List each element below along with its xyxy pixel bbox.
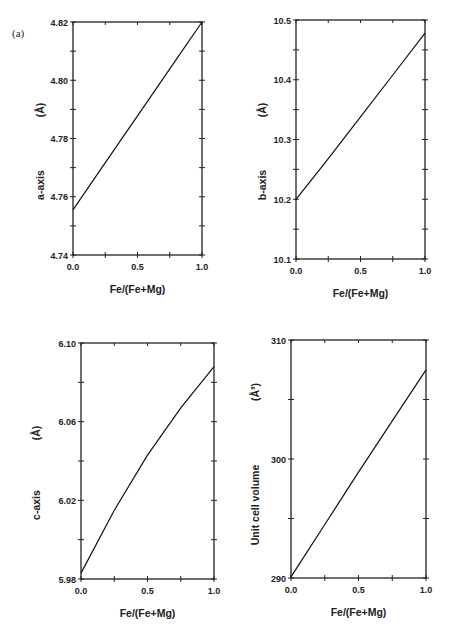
y-axis-label: Unit cell volume: [249, 465, 261, 546]
figure-canvas: 0.00.51.04.744.764.784.804.82Fe/(Fe+Mg)a…: [0, 0, 449, 631]
chart-4: 0.00.51.0290300310Fe/(Fe+Mg)Unit cell vo…: [249, 336, 432, 619]
y-tick-label: 4.74: [50, 251, 68, 261]
y-tick-label: 4.76: [50, 192, 68, 202]
y-tick-label: 310: [271, 336, 286, 346]
x-tick-label: 0.5: [131, 262, 144, 272]
data-line: [296, 33, 425, 199]
x-tick-label: 0.5: [141, 586, 154, 596]
y-tick-label: 10.3: [273, 135, 291, 145]
x-tick-label: 1.0: [196, 262, 209, 272]
chart-1: 0.00.51.04.744.764.784.804.82Fe/(Fe+Mg)a…: [34, 18, 208, 296]
x-tick-label: 1.0: [419, 266, 432, 276]
y-tick-label: 4.82: [50, 18, 68, 28]
chart-3: 0.00.51.05.986.026.066.10Fe/(Fe+Mg)c-axi…: [30, 339, 220, 620]
y-tick-label: 290: [271, 574, 286, 584]
y-axis-label: a-axis: [34, 170, 46, 200]
plot-frame: [73, 22, 202, 255]
chart-2: 0.00.51.010.110.210.310.410.5Fe/(Fe+Mg)b…: [256, 16, 431, 300]
y-axis-label: b-axis: [256, 170, 268, 201]
y-tick-label: 6.06: [58, 417, 76, 427]
x-tick-label: 0.0: [67, 262, 80, 272]
y-tick-label: 300: [271, 455, 286, 465]
y-axis-unit: (Å): [34, 103, 46, 118]
x-tick-label: 1.0: [420, 585, 433, 595]
x-tick-label: 0.0: [285, 585, 298, 595]
y-axis-unit: (Å): [256, 103, 268, 118]
plot-frame: [81, 343, 214, 579]
y-tick-label: 5.98: [58, 575, 76, 585]
y-tick-label: 4.80: [50, 76, 68, 86]
plot-frame: [296, 20, 425, 259]
plot-frame: [291, 340, 426, 578]
y-tick-label: 10.4: [273, 75, 291, 85]
x-axis-label: Fe/(Fe+Mg): [120, 607, 176, 619]
data-line: [73, 22, 202, 210]
y-tick-label: 10.5: [273, 16, 291, 26]
x-tick-label: 0.0: [75, 586, 88, 596]
y-tick-label: 6.10: [58, 339, 76, 349]
y-tick-label: 6.02: [58, 496, 76, 506]
data-line: [81, 367, 214, 573]
y-axis-label: c-axis: [30, 490, 42, 520]
y-tick-label: 10.1: [273, 255, 291, 265]
y-axis-unit: (Å³): [249, 383, 261, 401]
y-tick-label: 4.78: [50, 134, 68, 144]
x-tick-label: 1.0: [208, 586, 221, 596]
x-tick-label: 0.5: [354, 266, 367, 276]
x-axis-label: Fe/(Fe+Mg): [331, 606, 387, 618]
x-axis-label: Fe/(Fe+Mg): [333, 287, 389, 299]
x-tick-label: 0.0: [290, 266, 303, 276]
y-axis-unit: (Å): [30, 426, 42, 441]
x-axis-label: Fe/(Fe+Mg): [110, 283, 166, 295]
y-tick-label: 10.2: [273, 195, 291, 205]
data-line: [291, 370, 426, 577]
x-tick-label: 0.5: [352, 585, 365, 595]
